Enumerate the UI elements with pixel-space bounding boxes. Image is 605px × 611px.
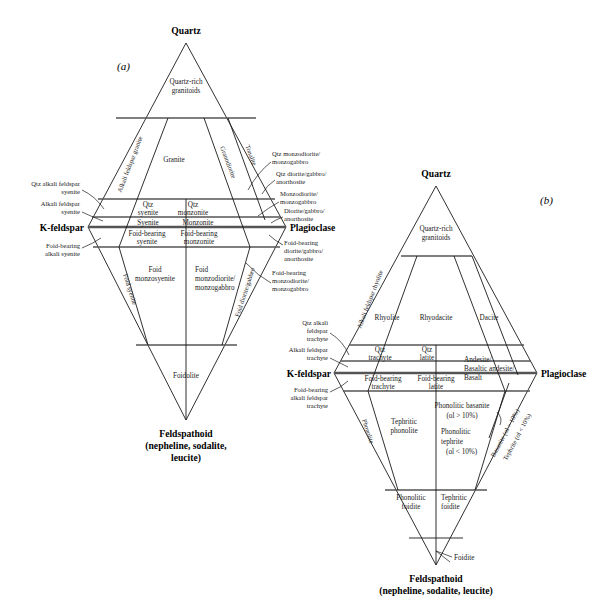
panel-a-right-diorite-gabbro-l1: Diorite/gabbro/	[284, 207, 325, 214]
panel-a-field-granite: Granite	[163, 156, 185, 164]
panel-a-right-monzodiorite-l1: Monzodiorite/	[280, 190, 318, 197]
panel-a-left-alkali-feldspar-syenite-l2: syenite	[61, 208, 80, 215]
panel-b-field-foid-bearing-trachyte-l1: Foid-bearing	[364, 375, 402, 383]
panel-a-left-foid-bearing-alkali-syenite-l2: alkali syenite	[45, 250, 80, 257]
panel-a-feldspathoid-vertex-label-3: leucite)	[171, 452, 201, 464]
panel-b-field-tephritic-phonolite-l1: Tephritic	[391, 418, 417, 426]
panel-b-field-qtz-latite-l1: Qtz	[422, 346, 432, 354]
panel-a-leader-diorite-gabbro	[271, 217, 283, 223]
panel-a-field-foid-monzodiorite-l2: monzodiorite/	[195, 275, 235, 283]
panel-b-diagonal-phonolite: Phonolite	[361, 418, 375, 444]
panel-b-left-alkali-feldspar-trachyte-l1: Alkali feldspar	[289, 346, 329, 353]
panel-b-field-tephritic-phonolite-l2: phonolite	[390, 427, 417, 435]
panel-b-field-tephritic-foidite-l2: foidite	[441, 503, 460, 511]
figure-canvas: (a) Quartz K-feldspar Plagioclase Feldsp…	[0, 0, 605, 611]
panel-a-right-qtz-monzodiorite-l2: monzogabbro	[272, 158, 309, 165]
panel-b-leader-qtz-alkali-feldspar-trachyte	[330, 333, 349, 355]
panel-b-left-foid-bearing-alkali-feldspar-trachyte-l2: alkali feldspar	[290, 394, 328, 401]
panel-b-plagioclase-vertex-label: Plagioclase	[541, 368, 587, 379]
panel-b-field-foid-bearing-trachyte-l2: trachyte	[371, 383, 394, 391]
panel-a-field-foid-bearing-monzonite-l1: Foid-bearing	[180, 230, 218, 238]
panel-a-field-foid-monzodiorite-l3: monzogabbro	[195, 284, 235, 292]
panel-a-plagioclase-vertex-label: Plagioclase	[290, 222, 336, 233]
panel-a-left-qtz-alkali-feldspar-syenite-l1: Qtz alkali feldspar	[31, 180, 81, 187]
panel-b-left-alkali-feldspar-trachyte-l2: trachyte	[307, 354, 328, 361]
panel-b-field-rhyolite: Rhyolite	[375, 314, 400, 322]
panel-b-id: (b)	[540, 194, 553, 207]
panel-a-field-foid-monzosyenite-l2: monzosyenite	[135, 275, 175, 283]
panel-b-field-phonolitic-tephrite-l3: (ol < 10%)	[446, 448, 478, 456]
panel-a-field-qtz-syenite-l2: syenite	[138, 209, 158, 217]
panel-a-field-foid-monzosyenite-l1: Foid	[148, 266, 162, 274]
panel-b-field-phonolitic-tephrite-l2: tephrite	[441, 438, 463, 446]
panel-a-right-qtz-diorite-l2: anorthosite	[276, 178, 305, 185]
panel-b-field-foid-bearing-latite-l1: Foid-bearing	[417, 375, 455, 383]
panel-a-right-foid-bearing-diorite-l3: anorthosite	[284, 255, 313, 262]
panel-b-field-phonolitic-foidite-l1: Phonolitic	[396, 494, 426, 502]
panel-a-left-foid-bearing-alkali-syenite-l1: Foid-bearing	[46, 242, 81, 249]
panel-a-diagonal-alkali-feldspar-granite: Alkali feldspar granite	[116, 135, 144, 193]
panel-a-field-foid-monzodiorite-l1: Foid	[195, 266, 209, 274]
panel-a-field-foid-bearing-syenite-l1: Foid-bearing	[128, 230, 166, 238]
panel-a-field-monzonite: Monzonite	[182, 219, 213, 227]
panel-a-right-foid-bearing-diorite-l1: Foid-bearing	[284, 239, 319, 246]
panel-a-right-diorite-gabbro-l2: anorthosite	[284, 215, 313, 222]
panel-b-left-qtz-alkali-feldspar-trachyte-l3: trachyte	[307, 335, 328, 342]
panel-b-field-rhyodacite: Rhyodacite	[420, 314, 453, 322]
panel-b-field-dacite: Dacite	[480, 314, 499, 322]
panel-a-right-foid-bearing-diorite-l2: diorite/gabbro/	[284, 247, 323, 254]
panel-b-field-qtz-latite-l2: latite	[420, 354, 434, 362]
panel-b-left-foid-bearing-alkali-feldspar-trachyte-l1: Foid-bearing	[294, 386, 329, 393]
panel-a-field-foid-bearing-monzonite-l2: monzonite	[184, 238, 214, 246]
panel-a-kfeldspar-vertex-label: K-feldspar	[40, 222, 85, 233]
panel-a-field-syenite: Syenite	[137, 219, 159, 227]
panel-b-field-phonolitic-basanite-l2: (ol > 10%)	[446, 412, 478, 420]
panel-b-field-quartz-rich-granitoids-l1: Quartz-rich	[419, 225, 453, 233]
panel-a-field-quartz-rich-granitoids-l1: Quartz-rich	[169, 78, 203, 86]
panel-a-field-foidolite: Foidolite	[173, 372, 199, 380]
panel-b-field-andesite-l1: Andesite/	[464, 356, 492, 364]
panel-a-right-foid-bearing-monzodiorite-l2: monzodiorite/	[272, 277, 309, 284]
panel-b-leader-alkali-feldspar-trachyte	[330, 358, 348, 367]
panel-a-left-alkali-feldspar-syenite-l1: Alkali feldspar	[41, 200, 81, 207]
panel-b-field-foidite: Foidite	[454, 554, 474, 562]
panel-a-diagonal-granodiorite: Granodiorite	[219, 145, 238, 179]
panel-b-left-foid-bearing-alkali-feldspar-trachyte-l3: trachyte	[307, 402, 328, 409]
panel-a-field-qtz-monzonite-l1: Qtz	[188, 201, 198, 209]
panel-a-field-qtz-syenite-l1: Qtz	[143, 201, 153, 209]
panel-a-feldspathoid-vertex-label-2: (nepheline, sodalite,	[145, 440, 227, 452]
panel-b-leader-foidite	[436, 551, 452, 557]
panel-a-right-qtz-monzodiorite-l1: Qtz monzodiorite/	[272, 150, 320, 157]
panel-b-quartz-vertex-label: Quartz	[421, 168, 451, 179]
panel-b-feldspathoid-vertex-label-1: Feldspathoid	[409, 573, 463, 584]
panel-a-diagonal-tonalite: Tonalite	[244, 144, 258, 167]
panel-b-left-qtz-alkali-feldspar-trachyte-l2: feldspar	[307, 327, 329, 334]
panel-b-kfeldspar-vertex-label: K-feldspar	[287, 368, 332, 379]
panel-a-left-qtz-alkali-feldspar-syenite-l2: syenite	[61, 188, 80, 195]
panel-a-field-foid-bearing-syenite-l2: syenite	[137, 238, 157, 246]
panel-a-right-monzodiorite-l2: monzogabbro	[280, 198, 317, 205]
panel-b-field-phonolitic-foidite-l2: foidite	[402, 503, 421, 511]
panel-b-field-foid-bearing-latite-l2: latite	[429, 383, 443, 391]
panel-a-field-qtz-monzonite-l2: monzonite	[178, 209, 208, 217]
qapf-classification-figure: (a) Quartz K-feldspar Plagioclase Feldsp…	[0, 0, 605, 611]
panel-a-id: (a)	[117, 60, 130, 73]
panel-a-right-foid-bearing-monzodiorite-l3: monzogabbro	[272, 285, 309, 292]
panel-a-feldspathoid-vertex-label-1: Feldspathoid	[159, 428, 213, 439]
panel-b-field-qtz-trachyte-l1: Qtz	[375, 346, 385, 354]
panel-b-left-qtz-alkali-feldspar-trachyte-l1: Qtz alkali	[302, 319, 328, 326]
panel-b-field-andesite-l2: Basaltic andesite/	[464, 365, 515, 373]
panel-a-right-qtz-diorite-l1: Qtz diorite/gabbro/	[276, 170, 327, 177]
panel-b-field-phonolitic-basanite-l1: Phonolitic basanite	[435, 402, 490, 410]
panel-a-quartz-vertex-label: Quartz	[171, 25, 201, 36]
panel-b-field-tephritic-foidite-l1: Tephritic	[441, 494, 467, 502]
panel-a-field-quartz-rich-granitoids-l2: granitoids	[172, 87, 201, 95]
panel-a-right-foid-bearing-monzodiorite-l1: Foid-bearing	[272, 269, 307, 276]
panel-b-feldspathoid-vertex-label-2: (nepheline, sodalite, leucite)	[379, 585, 493, 597]
panel-b-field-qtz-trachyte-l2: trachyte	[368, 354, 391, 362]
panel-b-field-quartz-rich-granitoids-l2: granitoids	[422, 234, 451, 242]
panel-b-field-phonolitic-tephrite-l1: Phonolitic	[441, 428, 471, 436]
panel-b-field-andesite-l3: Basalt	[464, 374, 482, 382]
